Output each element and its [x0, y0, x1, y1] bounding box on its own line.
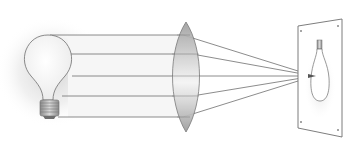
projection-screen — [298, 19, 342, 137]
optics-diagram: Convex lens focusing light from a bulb o… — [0, 0, 358, 142]
refracted-rays — [183, 35, 314, 117]
